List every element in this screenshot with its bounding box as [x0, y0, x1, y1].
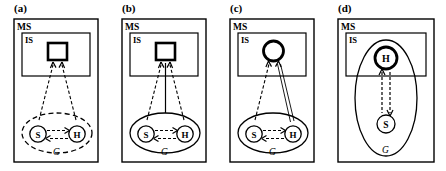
panel-c-node-s-label: S	[251, 130, 256, 140]
panel-b-percept-square	[156, 43, 175, 60]
panel-b: (b) MS IS G S H	[108, 0, 216, 171]
panel-d-graphic: MS IS G H S	[324, 0, 446, 171]
panel-a-node-s-label: S	[35, 130, 40, 140]
panel-b-ms-label: MS	[125, 22, 139, 32]
panel-d-ms-label: MS	[341, 22, 355, 32]
panel-d-node-h-label: H	[382, 53, 390, 64]
panel-b-node-h-label: H	[181, 130, 188, 140]
panel-b-group-label: G	[161, 147, 168, 157]
panel-a: (a) MS IS G S H	[0, 0, 108, 171]
panel-a-is-label: IS	[25, 35, 33, 45]
panel-a-percept-square	[48, 43, 67, 60]
panel-c-node-h-label: H	[289, 130, 296, 140]
panel-d-is-label: IS	[349, 35, 357, 45]
panel-b-node-s-label: S	[143, 130, 148, 140]
panel-a-group-label: G	[53, 147, 60, 157]
panel-c-ms-label: MS	[233, 22, 247, 32]
panel-c-is-label: IS	[241, 35, 249, 45]
panel-d: (d) MS IS G H S	[324, 0, 446, 171]
panel-a-arrows-to-percept	[39, 65, 76, 120]
panel-c: (c) MS IS G S H	[216, 0, 324, 171]
panel-b-graphic: MS IS G S H	[108, 0, 216, 171]
panel-b-arrowhead-left	[158, 62, 164, 68]
figure-four-panel-diagram: (a) MS IS G S H	[0, 0, 446, 171]
panel-b-is-label: IS	[133, 35, 141, 45]
panel-a-node-h-label: H	[73, 130, 80, 140]
panel-a-graphic: MS IS G S H	[0, 0, 108, 171]
panel-a-arrowhead-left	[50, 62, 56, 68]
panel-a-arrowhead-right	[59, 62, 65, 68]
panel-b-arrowhead-right	[167, 62, 173, 68]
panel-c-group-label: G	[269, 147, 276, 157]
panel-d-group-label: G	[382, 145, 389, 155]
panel-c-arrow-s-to-percept	[255, 64, 269, 120]
panel-d-node-s-label: S	[383, 120, 388, 130]
panel-c-graphic: MS IS G S H	[216, 0, 324, 171]
panel-c-percept-circle	[264, 41, 284, 61]
panel-a-ms-label: MS	[17, 22, 31, 32]
